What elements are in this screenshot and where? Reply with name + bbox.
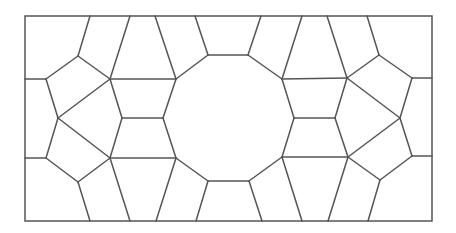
- tile-edge: [400, 78, 412, 118]
- tile-edges: [25, 16, 432, 221]
- tile-edge: [78, 56, 110, 79]
- tile-edge: [248, 55, 282, 79]
- tile-edge: [282, 16, 302, 79]
- tile-edge: [78, 182, 90, 221]
- tile-edge: [282, 79, 294, 118]
- tile-edge: [46, 79, 58, 118]
- tile-edge: [282, 78, 347, 79]
- tile-edge: [163, 118, 176, 158]
- tile-edge: [327, 16, 347, 78]
- tile-edge: [347, 55, 379, 78]
- tile-edge: [176, 158, 208, 181]
- tile-edge: [110, 79, 122, 118]
- tile-edge: [78, 158, 110, 182]
- tile-edge: [46, 158, 78, 182]
- tile-edge: [368, 180, 380, 221]
- tile-edge: [46, 56, 78, 79]
- tile-edge: [282, 118, 294, 157]
- tile-edge: [347, 78, 400, 118]
- tile-edge: [156, 158, 176, 221]
- tile-edge: [155, 16, 176, 79]
- tile-edge: [282, 157, 302, 221]
- tile-edge: [110, 16, 130, 79]
- tile-edge: [335, 118, 348, 157]
- tile-edge: [78, 16, 90, 56]
- tile-edge: [196, 181, 208, 221]
- tile-edge: [249, 181, 262, 221]
- tile-edge: [348, 157, 380, 180]
- tile-edge: [335, 78, 347, 118]
- tile-edge: [163, 79, 176, 118]
- tile-edge: [379, 55, 412, 78]
- tile-edge: [367, 16, 379, 55]
- tile-edge: [176, 55, 208, 79]
- tile-edge: [110, 158, 130, 221]
- tile-edge: [110, 118, 122, 158]
- tiling-svg: [0, 0, 456, 233]
- tile-edge: [328, 157, 348, 221]
- tile-edge: [195, 16, 208, 55]
- tile-edge: [248, 16, 261, 55]
- tile-edge: [400, 118, 412, 156]
- outer-frame: [25, 16, 432, 221]
- tile-edge: [58, 79, 110, 118]
- tile-edge: [380, 156, 412, 180]
- tile-edge: [58, 118, 110, 158]
- tile-edge: [46, 118, 58, 158]
- tiling-diagram: [0, 0, 456, 233]
- tile-edge: [249, 157, 282, 181]
- tile-edge: [348, 118, 400, 157]
